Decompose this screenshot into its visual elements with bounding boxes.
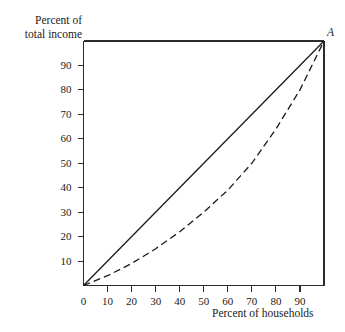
y-axis-ticks (78, 65, 84, 261)
lorenz-curve-figure: Percent of total income 1020304050607080… (0, 0, 345, 332)
x-axis-tick-label: 30 (144, 296, 168, 307)
x-axis-ticks (108, 286, 300, 292)
data-series-layer (84, 41, 325, 286)
x-axis-tick-label: 60 (216, 296, 240, 307)
x-axis-tick-label: 20 (120, 296, 144, 307)
x-axis-tick-label: 70 (240, 296, 264, 307)
y-axis-tick-label: 80 (50, 84, 72, 95)
point-a-label: A (327, 26, 334, 39)
x-axis-tick-label: 50 (192, 296, 216, 307)
y-axis-tick-label: 50 (50, 158, 72, 169)
series-line-of-equality (84, 41, 325, 286)
x-axis-tick-label: 10 (96, 296, 120, 307)
x-axis-label: Percent of households (212, 306, 314, 320)
x-axis-tick-label: 40 (168, 296, 192, 307)
y-axis-tick-label: 10 (50, 256, 72, 267)
x-axis-tick-label: 80 (264, 296, 288, 307)
y-axis-tick-label: 20 (50, 231, 72, 242)
x-axis-tick-label: 90 (288, 296, 312, 307)
y-axis-tick-label: 30 (50, 207, 72, 218)
y-axis-tick-label: 70 (50, 109, 72, 120)
y-axis-tick-label: 60 (50, 133, 72, 144)
x-axis-tick-label: 0 (72, 296, 96, 307)
y-axis-tick-label: 40 (50, 182, 72, 193)
y-axis-tick-label: 90 (50, 60, 72, 71)
